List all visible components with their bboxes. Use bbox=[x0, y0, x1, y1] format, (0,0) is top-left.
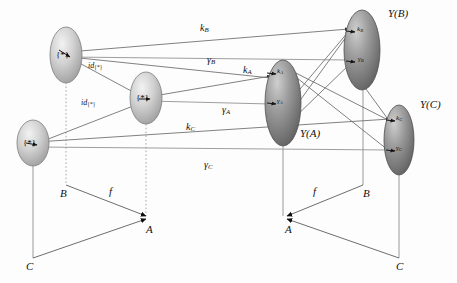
node-k-c: kC bbox=[396, 115, 402, 123]
source-bottom-label: {*} bbox=[23, 139, 36, 148]
base-right-vertex-a: A bbox=[285, 224, 292, 235]
edge-label-gamma-b: γB bbox=[207, 55, 215, 66]
edge-label-k-b: kB bbox=[200, 23, 209, 34]
node-k-a: kA bbox=[277, 68, 283, 76]
source-top-label: {*} bbox=[56, 51, 69, 60]
node-gamma-c: γC bbox=[396, 145, 402, 153]
base-left-vertex-b: B bbox=[60, 188, 67, 199]
node-k-b: kB bbox=[357, 26, 363, 34]
base-left-vertex-c: C bbox=[26, 261, 33, 272]
edge-label-k-c: kC bbox=[186, 122, 195, 133]
edge-label-k-a: kA bbox=[243, 65, 252, 76]
diagram-canvas: {*} {*} {*} Y(A) Y(B) Y(C) kA γA kB γB k… bbox=[0, 0, 457, 283]
target-b-label: Y(B) bbox=[388, 8, 408, 19]
target-c-label: Y(C) bbox=[420, 99, 441, 110]
node-gamma-a: γA bbox=[277, 98, 283, 106]
base-left-map-f: f bbox=[109, 186, 112, 197]
base-right-vertex-b: B bbox=[363, 188, 370, 199]
base-left-vertex-a: A bbox=[146, 224, 153, 235]
node-gamma-b: γB bbox=[358, 56, 364, 64]
base-triangle-left bbox=[33, 185, 146, 258]
ellipse-target-b bbox=[344, 10, 380, 90]
base-triangle-right bbox=[287, 185, 399, 258]
target-a-label: Y(A) bbox=[300, 128, 320, 139]
source-middle-label: {*} bbox=[136, 94, 149, 103]
edge-label-gamma-a: γA bbox=[222, 105, 230, 116]
edge-label-id-upper: id{*} bbox=[88, 62, 102, 71]
edge-label-gamma-c: γC bbox=[204, 160, 213, 171]
diagram-vector-layer bbox=[0, 0, 457, 283]
base-right-map-f: f bbox=[313, 186, 316, 197]
edge-label-id-lower: id{*} bbox=[81, 99, 95, 108]
transversal-edges bbox=[36, 29, 390, 150]
base-right-vertex-c: C bbox=[396, 261, 403, 272]
